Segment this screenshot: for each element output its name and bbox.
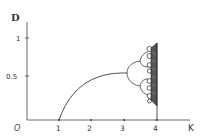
bifurcation-cascade <box>127 46 152 103</box>
x-axis-label: K <box>188 123 195 133</box>
stable-fixed-point-curve <box>59 73 127 120</box>
x-tick-label-4: 4 <box>153 124 158 133</box>
x-tick-label-3: 3 <box>120 124 125 133</box>
origin-label: O <box>14 124 20 133</box>
chaotic-region <box>151 43 157 106</box>
x-tick-label-2: 2 <box>87 124 92 133</box>
y-tick-label-1: 1 <box>16 35 20 43</box>
x-tick-label-1: 1 <box>56 124 61 133</box>
y-axis-label: D <box>11 12 20 23</box>
bifurcation-chart: D K O 1 0.5 1 2 3 4 <box>0 0 203 140</box>
y-tick-label-0.5: 0.5 <box>6 73 17 81</box>
